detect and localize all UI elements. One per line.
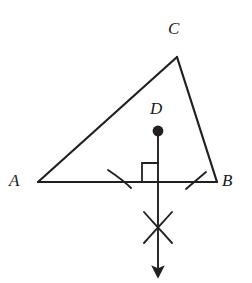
geometry-canvas [0, 0, 252, 283]
vertex-label-b: B [222, 172, 232, 189]
arc-tick-marks [108, 170, 206, 189]
point-D-dot [153, 126, 164, 137]
vertex-label-a: A [9, 172, 19, 189]
point-label-d: D [150, 100, 162, 117]
triangle-abc [38, 57, 217, 182]
arc-tick-right [186, 172, 206, 189]
segment-BC [177, 57, 217, 182]
arc-tick-left [108, 170, 131, 188]
vertex-label-c: C [168, 20, 179, 37]
right-angle-marker [142, 163, 158, 182]
right-angle-square [142, 163, 158, 182]
geometry-figure: A B C D [0, 0, 252, 283]
